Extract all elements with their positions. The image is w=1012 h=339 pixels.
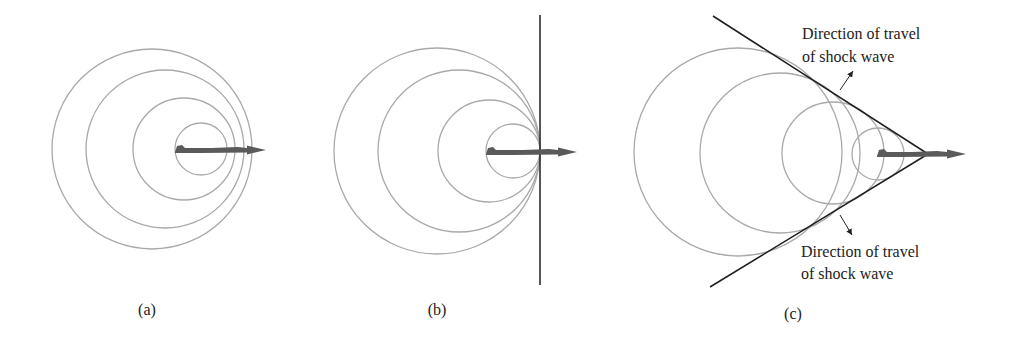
direction-arrow-icon <box>840 71 853 90</box>
annotation-upper-line1: Direction of travel <box>802 25 921 42</box>
panel-label-c: (c) <box>784 305 802 323</box>
shock-wave-figure: (a) (b) Direction <box>0 0 1012 339</box>
panel-label-b: (b) <box>428 301 447 319</box>
wavefront-circle <box>782 102 884 204</box>
annotation-upper: Direction of travel of shock wave <box>802 25 921 90</box>
annotation-upper-line2: of shock wave <box>802 48 894 65</box>
panel-c: Direction of travel of shock wave Direct… <box>634 16 966 323</box>
direction-arrow-icon <box>840 215 852 235</box>
annotation-lower: Direction of travel of shock wave <box>801 215 920 282</box>
plane-arrow-icon <box>486 147 577 157</box>
annotation-lower-line2: of shock wave <box>801 265 893 282</box>
wavefronts <box>634 48 904 256</box>
wavefront-circle <box>700 73 860 233</box>
panel-a: (a) <box>52 49 266 319</box>
annotation-lower-line1: Direction of travel <box>801 243 920 260</box>
panel-label-a: (a) <box>138 301 156 319</box>
panel-b: (b) <box>334 15 577 319</box>
